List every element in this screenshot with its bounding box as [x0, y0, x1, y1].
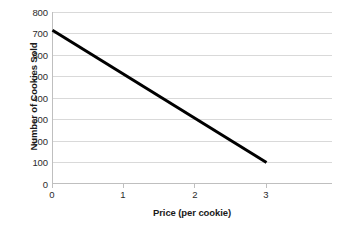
y-tick-label: 0 [8, 180, 48, 190]
data-series-line [52, 12, 332, 184]
x-axis-title: Price (per cookie) [52, 207, 332, 218]
x-tick-label: 1 [108, 190, 138, 200]
y-axis-title: Number of Cookies Sold [28, 12, 39, 182]
x-tick-label: 0 [37, 190, 67, 200]
x-tick-label: 2 [180, 190, 210, 200]
plot-area [52, 12, 332, 184]
x-tick-label: 3 [251, 190, 281, 200]
line-chart: 800 700 600 500 400 300 200 100 0 0 1 2 … [0, 0, 344, 237]
